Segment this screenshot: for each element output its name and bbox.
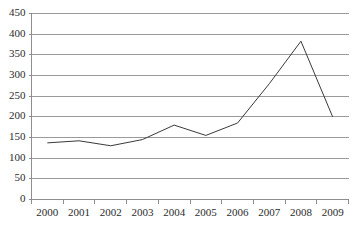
- x-axis-label-2001: 2001: [68, 206, 90, 218]
- chart-canvas: 050100150200250300350400450 200020012002…: [0, 0, 361, 230]
- y-axis-tick-labels: 050100150200250300350400450: [9, 6, 26, 204]
- y-axis-label-400: 400: [9, 27, 26, 39]
- y-axis-label-300: 300: [9, 68, 26, 80]
- x-axis-label-2003: 2003: [131, 206, 154, 218]
- x-axis-label-2008: 2008: [290, 206, 313, 218]
- y-axis-label-50: 50: [15, 171, 27, 183]
- data-line-series-0: [47, 41, 332, 146]
- x-axis-label-2007: 2007: [258, 206, 281, 218]
- x-axis-label-2002: 2002: [100, 206, 122, 218]
- x-axis-label-2006: 2006: [227, 206, 250, 218]
- x-axis-label-2005: 2005: [195, 206, 218, 218]
- y-axis-label-100: 100: [9, 151, 26, 163]
- x-axis-label-2004: 2004: [163, 206, 186, 218]
- data-series-group: [47, 41, 332, 146]
- y-axis-label-350: 350: [9, 47, 26, 59]
- gridlines: [32, 14, 349, 179]
- x-axis-tick-labels: 2000200120022003200420052006200720082009: [36, 206, 344, 218]
- y-axis-label-200: 200: [9, 109, 26, 121]
- y-axis-label-150: 150: [9, 130, 26, 142]
- line-chart: 050100150200250300350400450 200020012002…: [0, 0, 361, 230]
- y-axis-label-0: 0: [20, 192, 26, 204]
- x-axis-label-2000: 2000: [36, 206, 59, 218]
- y-axis-label-450: 450: [9, 6, 26, 18]
- y-axis-label-250: 250: [9, 89, 26, 101]
- x-axis-label-2009: 2009: [322, 206, 345, 218]
